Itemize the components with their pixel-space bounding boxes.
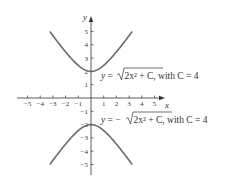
y-tick-label: −5 [81,161,89,169]
lower-curve-annotation: y = − 2x² + C, with C = 4 [100,112,208,125]
upper-radicand: 2x² + C [125,71,154,81]
x-tick-label: 5 [153,100,157,108]
upper-rest: , with C = 4 [153,71,198,81]
y-tick-label: 5 [85,28,89,36]
chart: −5−4−3−2−112345−5−4−3−2−112345 x y y = 2… [0,0,237,179]
x-tick-label: 3 [127,100,131,108]
upper-eq: = [105,71,113,81]
y-tick-label: −3 [81,134,89,142]
svg-text:y =: y = [100,71,113,81]
y-axis-label: y [82,12,87,22]
svg-text:2x² + C, with C = 4: 2x² + C, with C = 4 [134,115,208,125]
x-tick-label: 2 [115,100,119,108]
x-tick-label: −4 [36,100,44,108]
svg-text:2x² + C, with C = 4: 2x² + C, with C = 4 [125,71,199,81]
lower-rest: , with C = 4 [162,115,207,125]
y-tick-label: 3 [85,55,89,63]
x-tick-label: −3 [49,100,57,108]
lower-neg: − [115,115,120,125]
x-tick-label: −1 [75,100,83,108]
lower-radicand: 2x² + C [134,115,163,125]
y-tick-label: −1 [81,108,89,116]
ticks: −5−4−3−2−112345−5−4−3−2−112345 [24,28,157,169]
x-axis-label: x [164,100,169,110]
x-tick-label: 1 [102,100,106,108]
x-tick-label: −5 [24,100,32,108]
y-tick-label: 4 [85,41,89,49]
x-tick-label: 4 [140,100,144,108]
y-tick-label: −4 [81,148,89,156]
svg-text:y = −: y = − [100,115,121,125]
y-tick-label: 2 [85,68,89,76]
lower-eq: = [105,115,115,125]
upper-curve-annotation: y = 2x² + C, with C = 4 [100,68,199,81]
y-tick-label: 1 [85,81,89,89]
x-tick-label: −2 [62,100,70,108]
y-axis-arrow-icon [89,16,93,22]
